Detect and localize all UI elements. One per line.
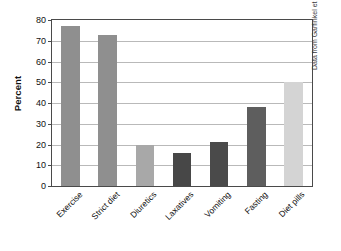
y-tick-label: 50 <box>36 77 46 87</box>
x-tick-label: Fasting <box>243 189 270 216</box>
y-tick-label: 60 <box>36 57 46 67</box>
y-tick-label: 20 <box>36 140 46 150</box>
bar <box>61 26 80 186</box>
x-tick-label: Strict diet <box>89 189 121 221</box>
y-tick-label: 70 <box>36 36 46 46</box>
y-tick-label: 80 <box>36 15 46 25</box>
x-axis-labels: ExerciseStrict dietDiureticsLaxativesVom… <box>51 188 313 250</box>
plot-area: 01020304050607080 <box>51 19 313 187</box>
bar <box>98 35 117 186</box>
y-axis-title: Percent <box>12 59 23 129</box>
bar-chart-figure: Percent 01020304050607080 ExerciseStrict… <box>0 0 341 251</box>
x-tick-label: Diet pills <box>277 189 307 219</box>
source-caption: Data from Garfinkel et al., 1995 <box>311 0 318 70</box>
y-tick-label: 40 <box>36 98 46 108</box>
y-tick-mark <box>48 186 52 187</box>
bar <box>284 82 303 186</box>
y-tick-label: 30 <box>36 119 46 129</box>
y-tick-label: 10 <box>36 160 46 170</box>
x-tick-label: Diuretics <box>128 189 158 219</box>
x-tick-label: Laxatives <box>163 189 195 221</box>
x-tick-label: Vomiting <box>202 189 232 219</box>
bar-series <box>52 20 312 186</box>
x-tick-label: Exercise <box>54 189 84 219</box>
y-tick-label: 0 <box>41 181 46 191</box>
